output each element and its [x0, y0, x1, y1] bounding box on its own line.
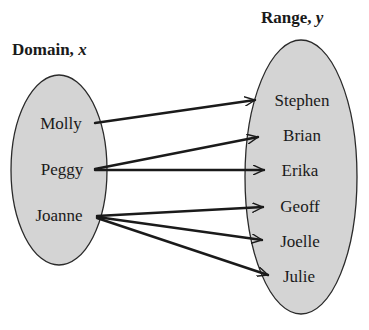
range-item-julie: Julie [283, 267, 315, 287]
domain-variable: x [78, 40, 87, 59]
arrow-joanne-joelle [97, 217, 262, 240]
range-item-erika: Erika [282, 161, 319, 181]
domain-heading: Domain, x [12, 40, 87, 60]
arrow-molly-stephen [95, 100, 255, 123]
range-variable: y [316, 8, 324, 27]
domain-title: Domain, [12, 40, 74, 59]
arrow-peggy-brian [95, 137, 258, 169]
arrow-joanne-julie [97, 218, 268, 275]
domain-item-molly: Molly [40, 114, 82, 134]
domain-item-peggy: Peggy [41, 160, 84, 180]
range-title: Range, [261, 8, 312, 27]
range-item-geoff: Geoff [280, 197, 319, 217]
domain-item-joanne: Joanne [35, 206, 82, 226]
mapping-diagram: Domain, x Range, y Molly Peggy Joanne St… [0, 0, 369, 330]
arrow-joanne-geoff [97, 207, 263, 216]
range-item-joelle: Joelle [280, 232, 320, 252]
range-item-stephen: Stephen [275, 91, 330, 111]
range-item-brian: Brian [283, 126, 321, 146]
range-heading: Range, y [261, 8, 323, 28]
